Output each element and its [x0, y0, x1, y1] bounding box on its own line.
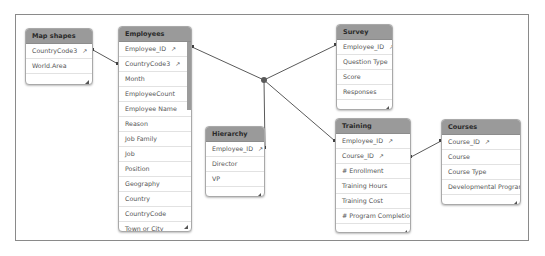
field-name: # Program Completion [342, 212, 411, 219]
field-list: Employee_ID↗Question TypeScoreResponses [337, 40, 392, 100]
table-title[interactable]: Hierarchy [206, 127, 264, 142]
field-row[interactable]: Score [337, 70, 392, 85]
field-row[interactable]: Job Family [119, 132, 191, 147]
field-name: Employee_ID [212, 145, 253, 152]
resize-handle-icon[interactable] [513, 201, 517, 205]
field-row[interactable]: CountryCode [119, 207, 191, 222]
table-footer [206, 187, 264, 197]
field-list: Employee_ID↗Course_ID↗# EnrollmentTraini… [336, 134, 410, 224]
field-name: Training Cost [342, 197, 383, 204]
field-row[interactable]: Training Hours [336, 179, 410, 194]
field-name: World.Area [32, 62, 67, 69]
resize-handle-icon[interactable] [403, 230, 407, 233]
field-row[interactable]: VP [206, 172, 264, 187]
field-name: Month [125, 75, 145, 82]
field-name: Developmental Program [448, 183, 521, 190]
table-mapshapes[interactable]: Map shapes CountryCode3↗World.Area [25, 28, 93, 85]
field-list: Employee_ID↗DirectorVP [206, 142, 264, 187]
resize-handle-icon[interactable] [385, 106, 389, 110]
field-name: Employee_ID [343, 43, 384, 50]
field-row[interactable]: World.Area [26, 59, 92, 74]
key-icon: ↗ [258, 145, 263, 152]
table-title[interactable]: Map shapes [26, 29, 92, 44]
field-name: Question Type [343, 58, 388, 65]
field-name: Course_ID [448, 138, 480, 145]
field-row[interactable]: Country [119, 192, 191, 207]
table-courses[interactable]: Courses Course_ID↗CourseCourse TypeDevel… [441, 119, 521, 205]
field-name: CountryCode3 [32, 47, 77, 54]
field-name: Course Type [448, 168, 486, 175]
table-footer [336, 224, 410, 233]
table-employees[interactable]: Employees Employee_ID↗CountryCode3↗Month… [118, 26, 192, 232]
field-name: Course_ID [342, 152, 374, 159]
table-footer [337, 100, 392, 110]
field-row[interactable]: Employee_ID↗ [336, 134, 410, 149]
table-hierarchy[interactable]: Hierarchy Employee_ID↗DirectorVP [205, 126, 265, 197]
field-row[interactable]: Course_ID↗ [336, 149, 410, 164]
table-title[interactable]: Survey [337, 25, 392, 40]
field-name: Employee Name [125, 105, 177, 112]
resize-handle-icon[interactable] [184, 225, 188, 229]
field-name: Reason [125, 120, 148, 127]
table-survey[interactable]: Survey Employee_ID↗Question TypeScoreRes… [336, 24, 393, 110]
table-training[interactable]: Training Employee_ID↗Course_ID↗# Enrollm… [335, 118, 411, 233]
field-row[interactable]: Reason [119, 117, 191, 132]
field-row[interactable]: # Enrollment [336, 164, 410, 179]
field-name: Position [125, 165, 150, 172]
key-icon: ↗ [379, 152, 384, 159]
key-icon: ↗ [485, 138, 490, 145]
scrollbar[interactable] [187, 42, 191, 110]
field-name: CountryCode [125, 210, 166, 217]
field-name: Town or City [125, 225, 164, 232]
field-name: EmployeeCount [125, 90, 175, 97]
field-row[interactable]: Course Type [442, 165, 520, 180]
field-name: Course [448, 153, 470, 160]
field-row[interactable]: Question Type [337, 55, 392, 70]
field-name: Geography [125, 180, 160, 187]
table-title[interactable]: Training [336, 119, 410, 134]
field-list: Course_ID↗CourseCourse TypeDevelopmental… [442, 135, 520, 195]
field-row[interactable]: Position [119, 162, 191, 177]
field-list: CountryCode3↗World.Area [26, 44, 92, 74]
field-row[interactable]: Employee_ID↗ [206, 142, 264, 157]
field-name: # Enrollment [342, 167, 384, 174]
key-icon: ↗ [175, 60, 180, 67]
table-footer [26, 74, 92, 85]
field-row[interactable]: Job [119, 147, 191, 162]
key-icon: ↗ [389, 43, 393, 50]
field-row[interactable]: Month [119, 72, 191, 87]
field-row[interactable]: Geography [119, 177, 191, 192]
field-name: VP [212, 175, 220, 182]
key-icon: ↗ [82, 47, 87, 54]
field-name: Employee_ID [125, 45, 166, 52]
field-row[interactable]: Responses [337, 85, 392, 100]
key-icon: ↗ [171, 45, 176, 52]
table-title[interactable]: Employees [119, 27, 191, 42]
field-name: Job [125, 150, 135, 157]
field-name: Country [125, 195, 150, 202]
field-row[interactable]: Employee Name [119, 102, 191, 117]
field-row[interactable]: EmployeeCount [119, 87, 191, 102]
field-name: Job Family [125, 135, 157, 142]
field-row[interactable]: CountryCode3↗ [26, 44, 92, 59]
field-name: Training Hours [342, 182, 387, 189]
field-row[interactable]: # Program Completion [336, 209, 410, 224]
field-row[interactable]: Employee_ID↗ [119, 42, 191, 57]
field-row[interactable]: Developmental Program [442, 180, 520, 195]
field-row[interactable]: Course_ID↗ [442, 135, 520, 150]
field-row[interactable]: Director [206, 157, 264, 172]
field-name: Director [212, 160, 237, 167]
field-row[interactable]: Employee_ID↗ [337, 40, 392, 55]
field-row[interactable]: CountryCode3↗ [119, 57, 191, 72]
resize-handle-icon[interactable] [85, 80, 89, 84]
table-title[interactable]: Courses [442, 120, 520, 135]
field-list: Employee_ID↗CountryCode3↗MonthEmployeeCo… [119, 42, 191, 232]
table-footer [442, 195, 520, 205]
field-name: Employee_ID [342, 137, 383, 144]
field-row[interactable]: Course [442, 150, 520, 165]
field-row[interactable]: Training Cost [336, 194, 410, 209]
field-name: Responses [343, 88, 377, 95]
resize-handle-icon[interactable] [257, 193, 261, 197]
field-row[interactable]: Town or City [119, 222, 191, 232]
key-icon: ↗ [388, 137, 393, 144]
